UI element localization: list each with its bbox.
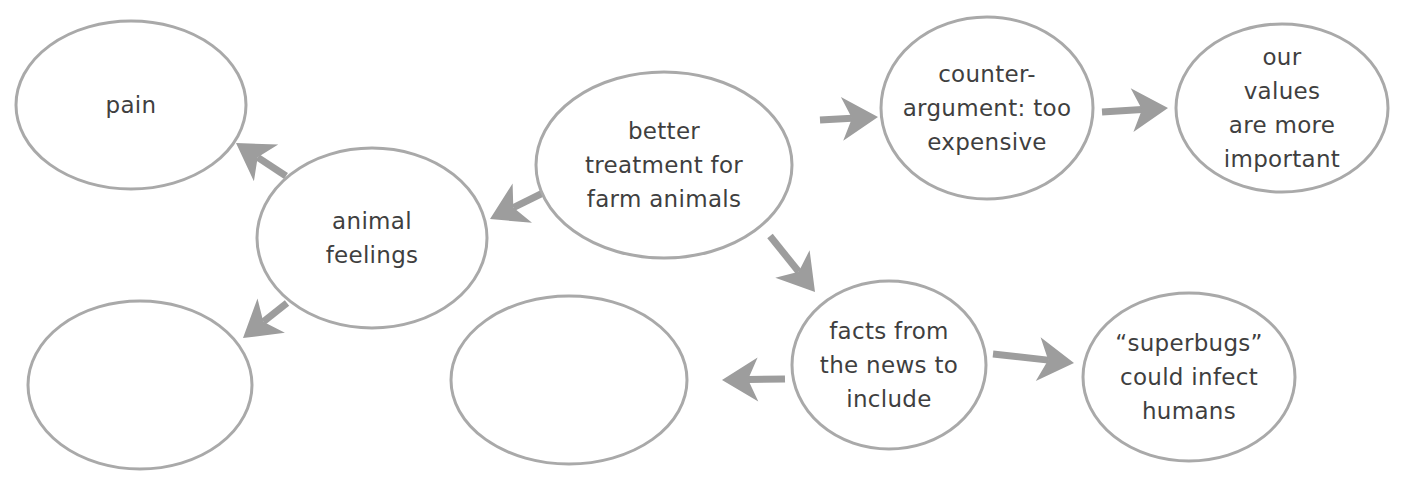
node-counter-argument-label: counter- argument: too expensive (903, 57, 1072, 159)
node-blank-left-ellipse (28, 301, 252, 469)
node-center-label: better treatment for farm animals (585, 114, 743, 216)
arrow-animal-feelings-to-blank-left (243, 298, 287, 338)
node-our-values-label: our values are more important (1222, 40, 1343, 176)
arrow-animal-feelings-to-pain (236, 143, 286, 181)
arrow-facts-news-to-blank-middle (722, 357, 785, 401)
arrow-facts-news-to-superbugs (993, 337, 1074, 381)
node-facts-news-label: facts from the news to include (820, 314, 958, 416)
node-animal-feelings-label: animal feelings (326, 204, 419, 272)
node-superbugs-label: “superbugs” could infect humans (1115, 326, 1263, 428)
arrow-center-to-counter-argument (820, 97, 878, 141)
node-pain-label: pain (106, 88, 157, 122)
node-blank-middle-ellipse (451, 296, 687, 464)
arrowhead-icon (236, 143, 278, 181)
arrow-center-to-facts-news (770, 236, 815, 292)
arrow-counter-argument-to-our-values (1102, 88, 1168, 132)
